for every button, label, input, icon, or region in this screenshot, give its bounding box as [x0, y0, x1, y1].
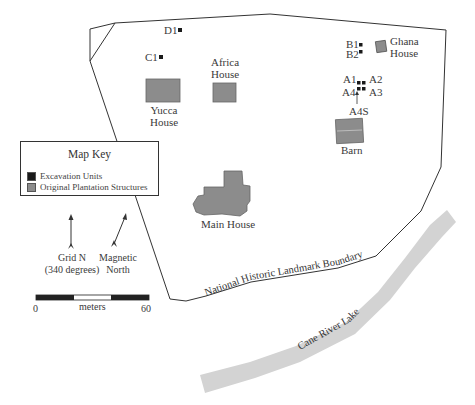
scale-end: 60 [141, 303, 151, 315]
map-key: Map Key Excavation Units Original Planta… [20, 141, 159, 196]
excavation-swatch-icon [27, 172, 36, 181]
scale-bar [36, 295, 149, 300]
ghana-house-structure [375, 40, 386, 52]
label-a1: A1 [343, 73, 356, 85]
key-item-excavation: Excavation Units [27, 171, 102, 181]
key-item-structures: Original Plantation Structures [27, 182, 147, 192]
boundary-label: National Historic Landmark Boundary [203, 248, 365, 298]
magnetic-north-arrow [111, 213, 127, 247]
label-yucca-house: Yucca House [146, 104, 182, 128]
grid-north-label: Grid N (340 degrees) [44, 252, 100, 276]
label-barn: Barn [341, 144, 362, 156]
label-africa-house: Africa House [206, 56, 244, 80]
label-a3: A3 [369, 86, 382, 98]
excavation-units [159, 28, 366, 91]
cane-river-lake [200, 210, 456, 393]
label-a2: A2 [369, 73, 382, 85]
scale-start: 0 [33, 303, 38, 315]
magnetic-north-label: Magnetic North [96, 252, 140, 276]
main-house-structure [193, 171, 250, 216]
label-ghana-house: Ghana House [390, 35, 419, 59]
map-key-title: Map Key [21, 148, 158, 160]
yucca-house-structure [146, 79, 180, 102]
structure-swatch-icon [27, 183, 36, 192]
label-a4: A4 [342, 86, 355, 98]
label-d1: D1 [164, 24, 177, 36]
scale-unit: meters [79, 301, 106, 313]
grid-north-arrow [68, 214, 74, 249]
africa-house-structure [213, 83, 236, 102]
label-c1: C1 [145, 51, 158, 63]
label-b2: B2 [346, 48, 359, 60]
label-a4s: A4S [349, 105, 369, 117]
label-main-house: Main House [201, 218, 255, 230]
